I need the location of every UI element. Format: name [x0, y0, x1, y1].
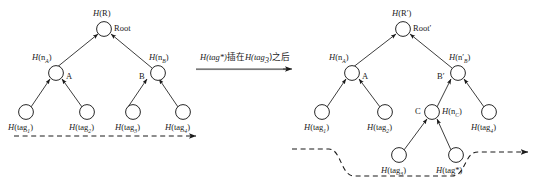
- diagram-vector-layer: [0, 0, 549, 186]
- node-a-right: [345, 66, 360, 81]
- label-node-a-name-left: A: [66, 72, 72, 81]
- label-node-b-hash-left: H(nB): [149, 53, 169, 64]
- left-tree-nodes: [19, 22, 191, 120]
- leaf-tag4-left: [176, 105, 191, 120]
- node-root-prime: [396, 22, 411, 37]
- node-b-prime: [451, 66, 466, 81]
- label-node-c-hash: H(nC): [442, 107, 462, 118]
- leaf-tag3-left: [126, 105, 141, 120]
- node-c-right: [425, 105, 440, 120]
- label-node-a-name-right: A: [362, 72, 368, 81]
- label-node-b-name-left: B: [139, 72, 145, 81]
- label-root-name-left: Root: [114, 24, 131, 33]
- label-leaf-tag1-left: H(tag1): [8, 123, 33, 134]
- label-leaf-tag3-left: H(tag3): [115, 123, 140, 134]
- label-leaf-tag1-right: H(tag1): [304, 123, 329, 134]
- label-leaf-tag4-left: H(tag4): [165, 123, 190, 134]
- label-root-name-right: Root′: [413, 24, 431, 33]
- leaf-tag1-right: [315, 105, 330, 120]
- label-node-a-hash-left: H(nA): [32, 53, 52, 64]
- label-node-b-prime-hash: H(n′B): [449, 53, 470, 64]
- label-leaf-tag4-right: H(tag4): [471, 123, 496, 134]
- right-flow-dashed-curve: [292, 149, 528, 176]
- leaf-tagstar-right: [449, 148, 464, 163]
- label-node-c-name: C: [415, 107, 421, 116]
- leaf-tag2-left: [80, 105, 95, 120]
- label-node-b-prime-name: B′: [437, 72, 445, 81]
- label-leaf-tag2-right: H(tag2): [367, 123, 392, 134]
- label-leaf-tag3-right: H(tag3): [381, 166, 406, 177]
- label-leaf-tagstar-right: H(tag*): [436, 166, 462, 175]
- node-a-left: [49, 66, 64, 81]
- transform-underline-arrow: [196, 69, 292, 70]
- leaf-tag3-right: [392, 148, 407, 163]
- leaf-tag4-right: [482, 105, 497, 120]
- transform-caption: H(tag*)插在H(tag3)之后: [200, 53, 290, 64]
- label-leaf-tag2-left: H(tag2): [69, 123, 94, 134]
- leaf-tag1-left: [19, 105, 34, 120]
- label-root-hash-right: H(R′): [392, 9, 411, 18]
- node-b-left: [151, 66, 166, 81]
- label-root-hash-left: H(R): [93, 9, 110, 18]
- right-tree-nodes: [315, 22, 497, 163]
- label-node-a-hash-right: H(nA): [329, 53, 349, 64]
- node-root-left: [97, 22, 112, 37]
- leaf-tag2-right: [378, 105, 393, 120]
- diagram-canvas: H(R) Root H(nA) A H(nB) B H(tag1) H(tag2…: [0, 0, 549, 186]
